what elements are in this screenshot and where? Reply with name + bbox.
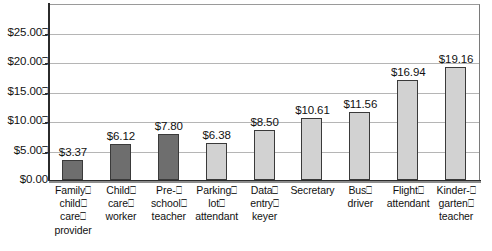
x-category-label: Secretary: [288, 184, 336, 196]
x-category-label: Data⎕entry⎕keyer: [241, 184, 289, 223]
missing-glyph-icon: ⎕: [418, 185, 424, 196]
bar-chart: $25.00⎕$20.00⎕$15.00⎕$10.00⎕$5.00⎕$0.00 …: [0, 0, 492, 251]
x-category-label-line: care⎕: [49, 210, 97, 223]
y-tick-label: $15.00⎕: [8, 86, 48, 98]
x-category-label-line: Flight⎕: [384, 184, 432, 197]
missing-glyph-icon: ⎕: [85, 185, 91, 196]
bar: [349, 112, 370, 180]
missing-glyph-icon: ⎕: [176, 185, 182, 196]
x-category-label: Child⎕care⎕worker: [97, 184, 145, 223]
x-category-label: Kinder-⎕garten⎕teacher: [432, 184, 480, 223]
bar-group: $11.56: [336, 4, 384, 180]
bar-group: $6.12: [97, 4, 145, 180]
bar: [110, 144, 131, 180]
missing-glyph-icon: ⎕: [80, 211, 86, 222]
x-category-label-line: keyer: [241, 210, 289, 222]
x-category-label-line: lot⎕: [193, 197, 241, 210]
bar: [445, 67, 466, 180]
y-tick-label: $10.00⎕: [8, 115, 48, 127]
x-category-label-line: Bus⎕: [336, 184, 384, 197]
bar-value-label: $7.80: [143, 120, 195, 132]
x-category-label-line: entry⎕: [241, 197, 289, 210]
x-category-label-line: child⎕: [49, 197, 97, 210]
x-category-label-line: Family⎕: [49, 184, 97, 197]
x-category-label-line: Child⎕: [97, 184, 145, 197]
x-category-label-line: attendant: [384, 197, 432, 209]
bar-value-label: $16.94: [382, 66, 434, 78]
bar-value-label: $11.56: [334, 98, 386, 110]
x-category-label-line: Kinder-⎕: [432, 184, 480, 197]
missing-glyph-icon: ⎕: [272, 185, 278, 196]
bar: [206, 143, 227, 181]
bar-group: $10.61: [288, 4, 336, 180]
missing-glyph-icon: ⎕: [366, 185, 372, 196]
bar-group: $8.50: [241, 4, 289, 180]
x-category-label-line: Parking⎕: [193, 184, 241, 197]
x-category-label: Family⎕child⎕care⎕provider: [49, 184, 97, 236]
bar: [158, 134, 179, 180]
bar: [397, 80, 418, 180]
x-category-label-line: care⎕: [97, 197, 145, 210]
bar-value-label: $6.12: [95, 130, 147, 142]
x-category-label-line: provider: [49, 224, 97, 236]
bar-group: $16.94: [384, 4, 432, 180]
bar: [62, 160, 83, 180]
bar-group: $19.16: [432, 4, 480, 180]
x-axis-line: [49, 180, 481, 183]
bar-group: $3.37: [49, 4, 97, 180]
bar-value-label: $3.37: [47, 146, 99, 158]
x-category-label: Parking⎕lot⎕attendant: [193, 184, 241, 223]
x-category-label: Flight⎕attendant: [384, 184, 432, 209]
missing-glyph-icon: ⎕: [181, 198, 187, 209]
x-category-label-line: driver: [336, 197, 384, 209]
missing-glyph-icon: ⎕: [130, 185, 136, 196]
bar: [254, 130, 275, 180]
y-tick-label: $0.00: [20, 174, 48, 186]
bar-value-label: $6.38: [191, 129, 243, 141]
bar-value-label: $19.16: [430, 53, 482, 65]
x-category-label-line: Data⎕: [241, 184, 289, 197]
x-axis-category-labels: Family⎕child⎕care⎕providerChild⎕care⎕wor…: [49, 184, 480, 251]
x-category-label-line: teacher: [145, 210, 193, 222]
missing-glyph-icon: ⎕: [468, 198, 474, 209]
x-category-label-line: garten⎕: [432, 197, 480, 210]
y-tick-label: $20.00⎕: [8, 56, 48, 68]
x-category-label-line: teacher: [432, 210, 480, 222]
x-category-label-line: Secretary: [288, 184, 336, 196]
x-category-label-line: school⎕: [145, 197, 193, 210]
bar-group: $7.80: [145, 4, 193, 180]
x-category-label: Pre-⎕school⎕teacher: [145, 184, 193, 223]
y-axis-labels: $25.00⎕$20.00⎕$15.00⎕$10.00⎕$5.00⎕$0.00: [0, 0, 49, 251]
bars-layer: $3.37$6.12$7.80$6.38$8.50$10.61$11.56$16…: [49, 4, 480, 180]
x-category-label: Bus⎕driver: [336, 184, 384, 209]
missing-glyph-icon: ⎕: [81, 198, 87, 209]
bar: [301, 118, 322, 180]
missing-glyph-icon: ⎕: [128, 198, 134, 209]
missing-glyph-icon: ⎕: [273, 198, 279, 209]
x-category-label-line: Pre-⎕: [145, 184, 193, 197]
bar-value-label: $8.50: [239, 116, 291, 128]
missing-glyph-icon: ⎕: [470, 185, 476, 196]
missing-glyph-icon: ⎕: [231, 185, 237, 196]
bar-group: $6.38: [193, 4, 241, 180]
y-tick-label: $5.00⎕: [14, 145, 48, 157]
x-category-label-line: worker: [97, 210, 145, 222]
missing-glyph-icon: ⎕: [219, 198, 225, 209]
bar-value-label: $10.61: [286, 104, 338, 116]
x-category-label-line: attendant: [193, 210, 241, 222]
y-tick-label: $25.00⎕: [8, 27, 48, 39]
